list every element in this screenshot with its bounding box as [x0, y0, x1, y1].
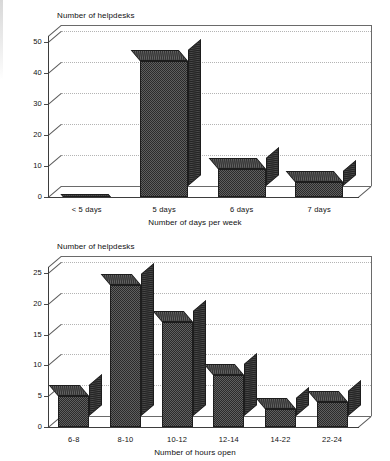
bar-top-face	[256, 398, 296, 409]
x-axis	[48, 197, 359, 198]
gridline	[61, 354, 371, 355]
y-axis	[48, 36, 49, 198]
y-tick-label: 15	[20, 330, 42, 339]
bar-front-face	[213, 375, 244, 427]
gridline	[61, 93, 371, 94]
bar-side-face	[193, 300, 206, 416]
y-tick-mark	[44, 365, 48, 366]
category-label: 10-12	[149, 435, 206, 444]
y-axis-title: Number of helpdesks	[57, 11, 135, 20]
bar-top-face	[152, 311, 192, 322]
plot-wall-right	[371, 25, 372, 186]
gridline-depth-edge	[48, 293, 62, 305]
bar-side-face	[266, 147, 279, 186]
y-tick-label: 30	[20, 99, 42, 108]
bar-side-face	[343, 160, 356, 186]
bar-side-face	[89, 374, 102, 416]
gridline	[61, 293, 371, 294]
y-tick-mark	[44, 335, 48, 336]
plot-depth-edge	[358, 186, 372, 198]
bar-top-face	[204, 364, 244, 375]
category-label: 14-22	[252, 435, 309, 444]
y-tick-mark	[44, 42, 48, 43]
plot-wall-top	[61, 256, 371, 257]
scanned-figure-page: { "page": { "background": "#ffffff", "ba…	[0, 0, 390, 461]
y-axis	[48, 267, 49, 428]
category-label: < 5 days	[43, 205, 130, 214]
gridline-depth-edge	[48, 324, 62, 336]
bar-top-face	[131, 50, 188, 61]
category-label: 7 days	[276, 205, 363, 214]
y-tick-mark	[44, 304, 48, 305]
y-tick-label: 10	[20, 360, 42, 369]
y-tick-label: 20	[20, 130, 42, 139]
chart-hours-open: 05101520256-88-1010-1212-1414-2222-24Num…	[0, 231, 390, 461]
gridline-depth-edge	[48, 155, 62, 167]
bar-front-face	[58, 396, 89, 427]
bar-front-face	[317, 402, 348, 427]
x-axis-title: Number of hours open	[0, 448, 390, 457]
bar-top-face	[208, 158, 265, 169]
bar-front-face	[218, 169, 266, 197]
gridline	[61, 124, 371, 125]
bar-side-face	[244, 353, 257, 416]
gridline-depth-edge	[48, 93, 62, 105]
bar-front-face	[110, 285, 141, 427]
category-label: 6-8	[45, 435, 102, 444]
bar-side-face	[188, 39, 201, 186]
bar-front-face	[162, 322, 193, 427]
bar-front-face	[265, 409, 296, 427]
x-axis	[48, 427, 359, 428]
y-tick-label: 25	[20, 268, 42, 277]
gridline	[61, 31, 371, 32]
category-label: 22-24	[304, 435, 361, 444]
category-label: 6 days	[198, 205, 285, 214]
category-label: 5 days	[121, 205, 208, 214]
bar	[140, 61, 188, 197]
bar	[295, 182, 343, 197]
gridline	[61, 62, 371, 63]
bar-top-face	[101, 274, 141, 285]
y-tick-mark	[44, 273, 48, 274]
gridline	[61, 155, 371, 156]
y-tick-mark	[44, 166, 48, 167]
chart-days-per-week: 01020304050< 5 days5 days6 days7 daysNum…	[0, 0, 390, 230]
bar	[317, 402, 348, 427]
bar	[218, 169, 266, 197]
bar-top-face	[286, 171, 343, 182]
bar-side-face	[141, 263, 154, 416]
plot-depth-edge	[48, 186, 62, 198]
bar-top-face	[307, 391, 347, 402]
y-tick-mark	[44, 197, 48, 198]
gridline-depth-edge	[48, 62, 62, 74]
bar-zero	[60, 194, 111, 197]
bar-front-face	[295, 182, 343, 197]
y-tick-label: 20	[20, 299, 42, 308]
bar-top-face	[49, 385, 89, 396]
plot-wall-right	[371, 256, 372, 416]
y-tick-label: 5	[20, 391, 42, 400]
y-tick-mark	[44, 135, 48, 136]
gridline	[61, 324, 371, 325]
category-label: 12-14	[200, 435, 257, 444]
gridline-depth-edge	[48, 124, 62, 136]
y-tick-label: 0	[20, 422, 42, 431]
y-tick-mark	[44, 104, 48, 105]
y-axis-title: Number of helpdesks	[57, 242, 135, 251]
gridline-depth-edge	[48, 354, 62, 366]
bar-front-face	[140, 61, 188, 197]
y-tick-mark	[44, 73, 48, 74]
y-tick-label: 50	[20, 37, 42, 46]
y-tick-label: 40	[20, 68, 42, 77]
y-tick-label: 10	[20, 161, 42, 170]
bar	[265, 409, 296, 427]
bar	[58, 396, 89, 427]
y-tick-mark	[44, 396, 48, 397]
y-tick-mark	[44, 427, 48, 428]
bar	[213, 375, 244, 427]
category-label: 8-10	[97, 435, 154, 444]
plot-wall-top	[61, 25, 371, 26]
bar	[162, 322, 193, 427]
y-tick-label: 0	[20, 192, 42, 201]
bar	[110, 285, 141, 427]
